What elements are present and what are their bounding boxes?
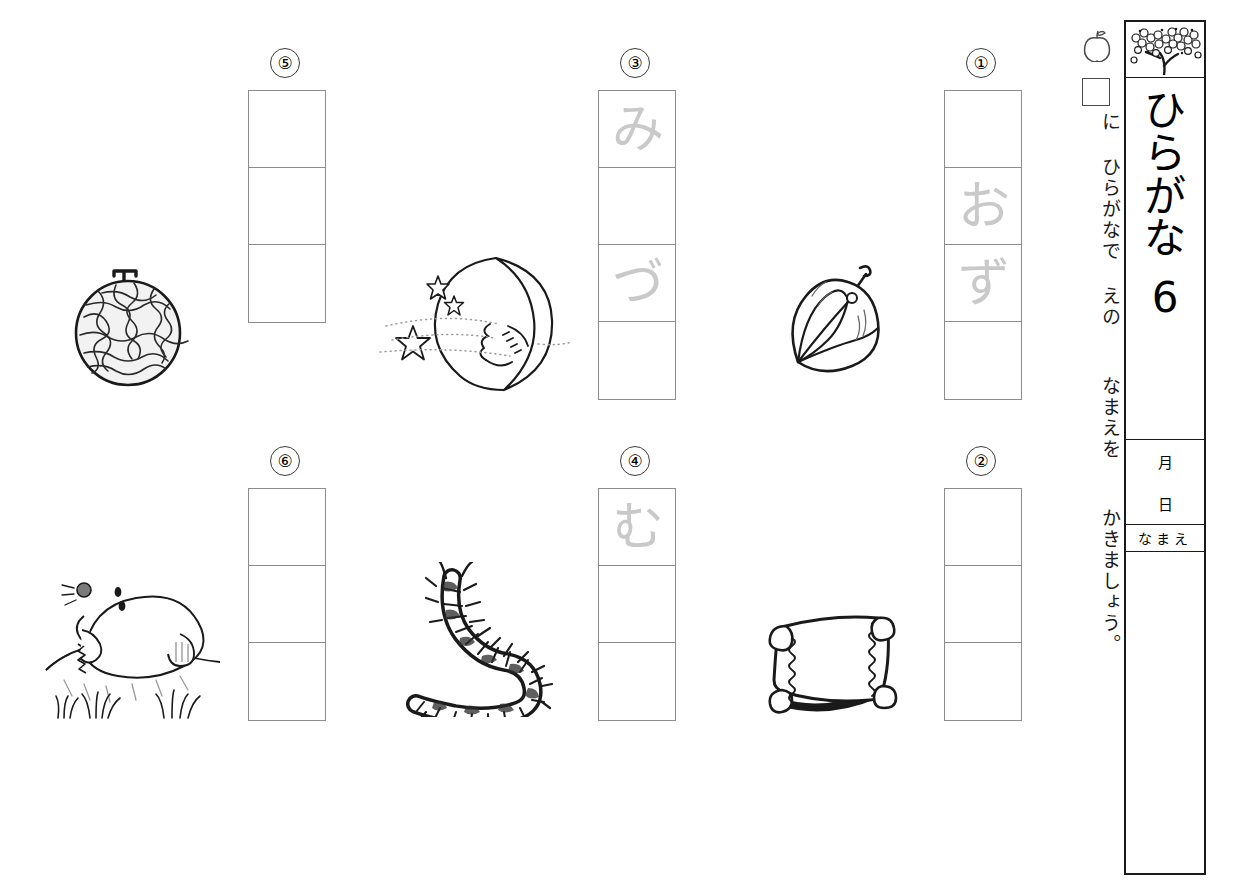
answer-cell[interactable] [945, 91, 1022, 168]
picture-melon [62, 255, 202, 395]
ghost-char: ず [945, 245, 1022, 321]
title-char-3: が [1144, 176, 1186, 219]
title-number: 6 [1152, 277, 1179, 319]
picture-ground-cherry [772, 244, 902, 394]
picture-crescent-moon [378, 248, 578, 393]
ghost-char [599, 566, 676, 642]
ghost-char [945, 566, 1022, 642]
answer-cell[interactable] [249, 245, 326, 322]
answer-cell[interactable] [249, 168, 326, 245]
instruction-block: に ひらがなで えの なまえを かきましょう。 [1076, 28, 1120, 648]
cherry-blossom-icon [1126, 22, 1204, 78]
ghost-char [249, 489, 326, 565]
title-char-1: ひ [1144, 90, 1186, 133]
title-char-2: ら [1144, 133, 1186, 176]
answer-cell[interactable] [599, 643, 676, 720]
problem-number-5: ⑤ [270, 48, 300, 78]
answer-cell[interactable] [945, 643, 1022, 720]
answer-cell[interactable] [599, 566, 676, 643]
month-field[interactable]: 月 [1126, 440, 1204, 482]
answer-grid-2[interactable] [944, 488, 1022, 721]
answer-cell[interactable]: づ [599, 245, 676, 322]
problem-4: ④ む [550, 446, 720, 736]
ghost-char [249, 91, 326, 167]
answer-grid-1[interactable]: お ず [944, 90, 1022, 400]
answer-cell[interactable] [599, 322, 676, 399]
instruction-text: に ひらがなで えの なまえを かきましょう。 [1076, 112, 1120, 655]
ghost-char [249, 245, 326, 322]
problem-number-1: ① [966, 48, 996, 78]
problem-1: ① お ず [896, 48, 1066, 418]
ghost-char [249, 643, 326, 720]
ghost-char [249, 566, 326, 642]
problem-number-2: ② [966, 446, 996, 476]
answer-cell[interactable] [249, 566, 326, 643]
worksheet-title: ひ ら が な 6 [1126, 78, 1204, 440]
ghost-char [945, 322, 1022, 399]
picture-mole [40, 558, 225, 723]
ghost-char [599, 322, 676, 399]
problem-6: ⑥ [200, 446, 370, 736]
empty-square-icon [1082, 78, 1110, 106]
answer-cell[interactable] [249, 489, 326, 566]
problem-5: ⑤ [200, 48, 370, 338]
answer-cell[interactable] [599, 168, 676, 245]
name-label: なまえ [1138, 528, 1192, 548]
ghost-char [249, 168, 326, 244]
month-label: 月 [1158, 451, 1173, 472]
ghost-char: づ [599, 245, 676, 321]
ghost-char: お [945, 168, 1022, 244]
problem-number-3: ③ [620, 48, 650, 78]
problem-number-6: ⑥ [270, 446, 300, 476]
answer-cell[interactable]: む [599, 489, 676, 566]
day-label: 日 [1158, 493, 1173, 514]
answer-cell[interactable] [945, 566, 1022, 643]
name-label-row: なまえ [1126, 524, 1204, 552]
picture-centipede [404, 562, 554, 717]
problem-number-4: ④ [620, 446, 650, 476]
title-char-4: な [1144, 218, 1186, 261]
answer-cell[interactable] [249, 643, 326, 720]
picture-pillow [756, 604, 906, 724]
answer-cell[interactable] [249, 91, 326, 168]
ghost-char [599, 643, 676, 720]
answer-cell[interactable]: お [945, 168, 1022, 245]
apple-icon [1082, 28, 1112, 66]
title-column: ひ ら が な 6 月 日 なまえ [1124, 20, 1206, 875]
ghost-char: む [599, 489, 676, 565]
answer-cell[interactable]: み [599, 91, 676, 168]
answer-cell[interactable] [945, 489, 1022, 566]
answer-grid-3[interactable]: み づ [598, 90, 676, 400]
ghost-char [945, 643, 1022, 720]
answer-grid-5[interactable] [248, 90, 326, 323]
answer-cell[interactable]: ず [945, 245, 1022, 322]
ghost-char [599, 168, 676, 244]
ghost-char [945, 91, 1022, 167]
answer-grid-6[interactable] [248, 488, 326, 721]
ghost-char: み [599, 91, 676, 167]
answer-cell[interactable] [945, 322, 1022, 399]
answer-grid-4[interactable]: む [598, 488, 676, 721]
worksheet-page: ⑤ [0, 0, 1243, 894]
day-field[interactable]: 日 [1126, 482, 1204, 524]
ghost-char [945, 489, 1022, 565]
problem-2: ② [896, 446, 1066, 736]
